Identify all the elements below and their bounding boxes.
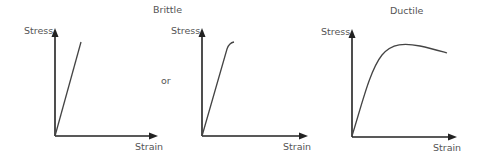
y-axis-label: Stress <box>171 25 200 36</box>
x-axis-arrow-icon <box>149 133 158 140</box>
chart-ductile: Stress Strain <box>321 26 461 153</box>
stress-strain-curve <box>352 44 447 136</box>
chart-brittle-2: Stress Strain <box>171 25 311 152</box>
or-connector: or <box>161 75 171 86</box>
ductile-heading: Ductile <box>390 5 424 16</box>
chart-brittle-1: Stress Strain <box>24 25 163 152</box>
stress-strain-diagram: Brittle Ductile Stress Strain or Stress … <box>0 0 482 160</box>
y-axis-label: Stress <box>24 25 53 36</box>
x-axis-label: Strain <box>135 141 163 152</box>
x-axis-arrow-icon <box>448 134 457 141</box>
brittle-heading: Brittle <box>153 4 182 15</box>
x-axis-label: Strain <box>283 141 311 152</box>
y-axis-label: Stress <box>321 26 350 37</box>
stress-strain-curve <box>202 42 234 136</box>
stress-strain-curve <box>55 42 81 136</box>
x-axis-label: Strain <box>433 142 461 153</box>
x-axis-arrow-icon <box>299 133 308 140</box>
